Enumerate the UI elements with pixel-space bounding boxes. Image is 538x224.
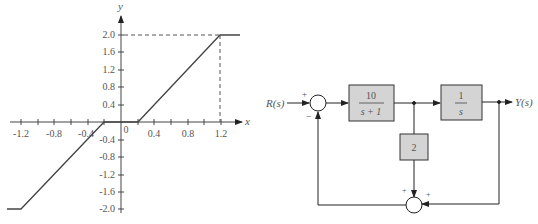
svg-text:1.6: 1.6 bbox=[103, 46, 116, 57]
svg-text:-1.6: -1.6 bbox=[99, 186, 115, 197]
g1-denominator: s + 1 bbox=[361, 106, 382, 117]
feedback-path bbox=[318, 112, 406, 205]
svg-text:-0.8: -0.8 bbox=[46, 128, 62, 139]
sum1-minus-sign: − bbox=[306, 111, 312, 122]
sum2-top-plus-sign: + bbox=[402, 186, 407, 195]
svg-text:0.4: 0.4 bbox=[103, 99, 116, 110]
svg-text:0.4: 0.4 bbox=[148, 128, 161, 139]
g1-numerator: 10 bbox=[366, 90, 376, 101]
sum2-right-plus-sign: + bbox=[426, 190, 431, 199]
svg-text:1.2: 1.2 bbox=[103, 64, 116, 75]
svg-text:-2.0: -2.0 bbox=[99, 203, 115, 214]
svg-text:-0.4: -0.4 bbox=[78, 128, 94, 139]
svg-text:0.8: 0.8 bbox=[182, 128, 195, 139]
figure: x y -1.2 -0.8 -0.4 0 0.4 0.8 1.2 bbox=[0, 0, 538, 224]
svg-text:0: 0 bbox=[124, 124, 129, 135]
svg-text:-1.2: -1.2 bbox=[13, 128, 29, 139]
g2-numerator: 1 bbox=[459, 90, 464, 101]
input-label: R(s) bbox=[265, 97, 285, 110]
dead-zone-saturation-chart: x y -1.2 -0.8 -0.4 0 0.4 0.8 1.2 bbox=[7, 0, 250, 214]
g2-denominator: s bbox=[459, 106, 463, 117]
gain-label: 2 bbox=[412, 142, 417, 153]
svg-text:1.2: 1.2 bbox=[215, 128, 228, 139]
x-tick-labels: -1.2 -0.8 -0.4 0 0.4 0.8 1.2 bbox=[13, 124, 227, 139]
svg-text:-0.4: -0.4 bbox=[99, 134, 115, 145]
summing-junction-1 bbox=[310, 95, 326, 111]
svg-text:-0.8: -0.8 bbox=[99, 151, 115, 162]
output-label: Y(s) bbox=[515, 96, 533, 109]
y-axis-label: y bbox=[117, 0, 123, 12]
svg-text:-1.2: -1.2 bbox=[99, 169, 115, 180]
x-axis-label: x bbox=[244, 115, 250, 127]
sum1-plus-sign: + bbox=[302, 89, 307, 99]
svg-text:0.8: 0.8 bbox=[103, 81, 116, 92]
summing-junction-2 bbox=[406, 197, 422, 213]
svg-text:2.0: 2.0 bbox=[103, 29, 116, 40]
block-diagram: R(s) + − 10 s + 1 1 s Y(s) 2 + + bbox=[265, 85, 533, 213]
